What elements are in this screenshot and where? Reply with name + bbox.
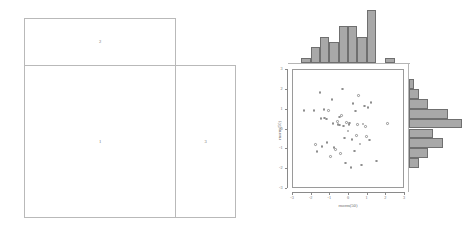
layout-cell-1: 1 xyxy=(24,65,176,218)
y-axis-tick xyxy=(285,168,288,169)
right-histogram-bar xyxy=(409,129,433,139)
top-histogram-bar xyxy=(311,47,320,63)
x-axis-tick-label: -2 xyxy=(309,196,313,200)
right-histogram-bar xyxy=(409,138,443,148)
scatter-point xyxy=(316,150,319,153)
scatter-point xyxy=(321,145,324,148)
scatter-point xyxy=(329,155,332,158)
layout-cell-3: 3 xyxy=(175,65,236,218)
top-histogram-bar xyxy=(385,58,394,63)
scatter-point xyxy=(350,166,353,169)
x-axis-tick-label: 0 xyxy=(347,196,349,200)
scatter-point xyxy=(325,118,328,121)
y-axis-tick xyxy=(285,188,288,189)
scatter-point xyxy=(338,124,341,127)
scatter-point xyxy=(342,125,345,128)
y-axis-tick xyxy=(285,129,288,130)
scatter-point xyxy=(327,109,330,112)
scatter-point xyxy=(344,162,347,165)
top-histogram-bar xyxy=(348,26,357,63)
scatter-point xyxy=(314,143,317,146)
y-axis-tick xyxy=(285,109,288,110)
scatter-point xyxy=(365,135,368,138)
top-marginal-histogram xyxy=(292,10,404,63)
scatter-point xyxy=(352,102,355,105)
scatter-point xyxy=(343,137,346,140)
y-axis-tick-label: 2 xyxy=(280,87,282,91)
x-axis-label: rnorm(50) xyxy=(292,204,404,209)
x-axis-tick-label: -3 xyxy=(290,196,294,200)
scatter-point xyxy=(339,152,342,155)
scatter-point xyxy=(320,117,323,120)
right-histogram-bar xyxy=(409,109,448,119)
scatter-point xyxy=(353,150,356,153)
right-histogram-bar xyxy=(409,158,419,168)
x-axis-tick-label: 3 xyxy=(403,196,405,200)
layout-cell-3-label: 3 xyxy=(176,139,235,144)
scatter-point xyxy=(359,143,362,146)
scatter-point xyxy=(313,109,316,112)
y-axis-line xyxy=(287,69,288,188)
right-histogram-bar xyxy=(409,99,428,109)
right-histogram-bar xyxy=(409,148,428,158)
scatter-point xyxy=(370,101,373,104)
y-axis-tick xyxy=(285,69,288,70)
scatter-point xyxy=(319,91,322,94)
scatter-point xyxy=(331,98,334,101)
x-axis-tick-label: 1 xyxy=(366,196,368,200)
scatter-with-marginals-plot: -3-2-10123-3-2-10123 rnorm(50) rnorm(50) xyxy=(268,0,469,228)
scatter-point xyxy=(357,94,360,97)
scatter-plot-area xyxy=(292,69,404,188)
top-histogram-bar xyxy=(320,37,329,64)
scatter-point xyxy=(347,130,350,133)
y-axis-tick-label: 3 xyxy=(280,67,282,71)
scatter-point xyxy=(355,134,358,137)
scatter-point xyxy=(368,139,371,142)
top-histogram-bar xyxy=(329,42,338,63)
scatter-point xyxy=(323,108,326,111)
scatter-point xyxy=(363,105,366,108)
x-axis-tick-label: 2 xyxy=(384,196,386,200)
layout-cell-1-label: 1 xyxy=(25,139,175,144)
scatter-point xyxy=(326,141,329,144)
scatter-point xyxy=(364,125,367,128)
scatter-point xyxy=(367,106,370,109)
scatter-point xyxy=(386,122,389,125)
scatter-point xyxy=(375,160,378,163)
y-axis-tick xyxy=(285,148,288,149)
right-histogram-bar xyxy=(409,89,419,99)
top-histogram-bar xyxy=(301,58,310,63)
scatter-point xyxy=(360,164,363,167)
y-axis-tick xyxy=(285,89,288,90)
top-histogram-baseline xyxy=(288,63,410,64)
layout-matrix-diagram: 1 2 3 xyxy=(0,0,235,228)
y-axis-label: rnorm(50) xyxy=(278,100,283,160)
right-marginal-histogram xyxy=(409,69,462,188)
scatter-point xyxy=(332,122,335,125)
x-axis-tick-label: -1 xyxy=(328,196,332,200)
scatter-point xyxy=(340,114,343,117)
scatter-point xyxy=(356,123,359,126)
scatter-point xyxy=(351,138,354,141)
y-axis-tick-label: -3 xyxy=(279,186,283,190)
scatter-point xyxy=(341,88,344,91)
right-histogram-bar xyxy=(409,119,462,129)
scatter-point xyxy=(334,148,337,151)
top-histogram-bar xyxy=(367,10,376,63)
layout-cell-2: 2 xyxy=(24,18,176,66)
top-histogram-bar xyxy=(339,26,348,63)
scatter-point xyxy=(303,109,306,112)
layout-cell-2-label: 2 xyxy=(25,40,175,45)
y-axis-tick-label: -2 xyxy=(279,166,283,170)
right-histogram-bar xyxy=(409,79,414,89)
top-histogram-bar xyxy=(357,37,366,64)
scatter-point xyxy=(354,110,357,113)
figure-root: 1 2 3 -3-2-10123-3-2-10123 rnorm(50) rno… xyxy=(0,0,469,228)
